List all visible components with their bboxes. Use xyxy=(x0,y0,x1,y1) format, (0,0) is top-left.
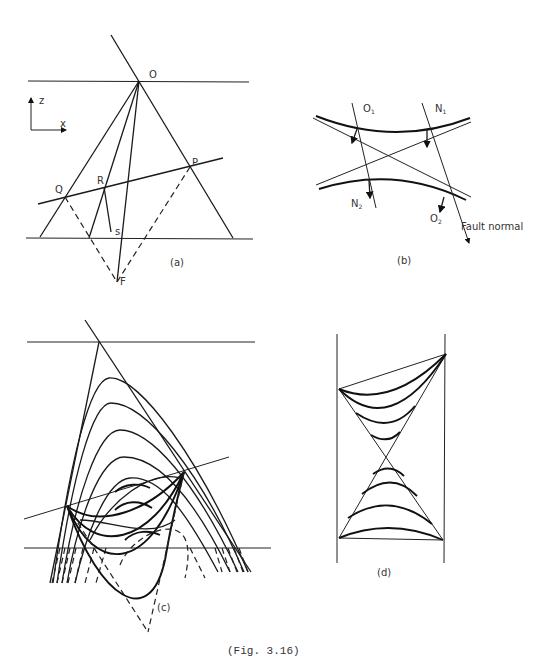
lower-chord xyxy=(339,538,443,540)
ray-o-r xyxy=(89,81,139,238)
trajectory-curve xyxy=(67,457,230,583)
point-f-label: F xyxy=(120,276,126,287)
point-r-label: R xyxy=(97,175,104,186)
o2-label: O2 xyxy=(430,213,442,225)
ray-r-s xyxy=(104,187,111,232)
point-s-label: s xyxy=(115,226,120,237)
panel-c: (c) xyxy=(24,320,271,632)
diagonal-descending xyxy=(339,389,443,540)
dashed-q-f xyxy=(65,197,117,282)
right-boundary-line xyxy=(111,35,233,238)
o2-arrow-icon xyxy=(440,197,444,212)
lower-curve xyxy=(319,179,466,200)
axis-x-label: x xyxy=(60,118,66,129)
point-p-label: P xyxy=(192,157,198,168)
diagonal-ascending xyxy=(339,354,446,538)
panel-a: z x O P Q R s F (a) xyxy=(26,35,253,287)
inclined-line xyxy=(24,457,229,519)
n2-label: N2 xyxy=(351,198,362,210)
panel-d-label: (d) xyxy=(377,567,391,578)
o1-n2-normal-line xyxy=(352,103,376,208)
o1-label: O1 xyxy=(363,103,375,115)
trajectory-curve xyxy=(57,403,244,583)
panel-a-label: (a) xyxy=(170,257,184,268)
upper-chord xyxy=(339,354,446,389)
point-o-label: O xyxy=(149,69,157,80)
panel-c-label: (c) xyxy=(157,602,170,613)
fault-normal-label: Fault normal xyxy=(461,221,523,232)
n1-label: N1 xyxy=(435,103,446,115)
upper-curve xyxy=(356,406,415,423)
bottom-horizontal-line xyxy=(26,238,253,239)
upper-curve xyxy=(316,116,470,132)
axis-z-label: z xyxy=(39,95,44,106)
panel-b-label: (b) xyxy=(397,255,411,266)
right-vertical-line xyxy=(444,334,445,563)
panel-b: O1 N1 N2 O2 Fault normal (b) xyxy=(313,103,523,266)
o1-arrow-icon xyxy=(352,129,357,143)
figure-canvas: z x O P Q R s F (a) O1 N1 N2 O2 Fault no… xyxy=(0,0,548,669)
point-q-label: Q xyxy=(55,184,63,195)
panel-d: (d) xyxy=(337,334,446,578)
lower-curve xyxy=(373,468,404,476)
upper-curve xyxy=(371,432,400,439)
upper-curve xyxy=(339,354,446,395)
figure-caption: (Fig. 3.16) xyxy=(227,645,300,657)
lower-curve xyxy=(348,505,432,524)
dashed-v-left xyxy=(67,506,148,632)
